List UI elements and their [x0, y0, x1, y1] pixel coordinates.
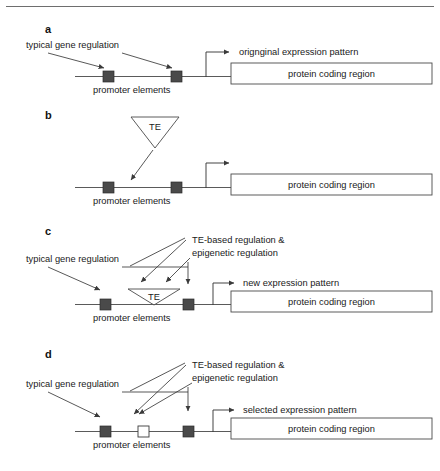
panel-c: c TE-based regulation & epigenetic regul…	[26, 225, 432, 323]
panel-d-promoter-elements-label: promoter elements	[93, 440, 171, 450]
panel-d: d TE-based regulation & epigenetic regul…	[26, 348, 432, 450]
panel-b-promoter-box-left	[103, 182, 114, 193]
panel-c-te-label: TE	[148, 292, 160, 302]
panel-b-letter: b	[45, 109, 52, 121]
panel-a-expression-pattern-label: orignginal expression pattern	[239, 47, 358, 57]
panel-a-promoter-elements-label: promoter elements	[93, 85, 171, 95]
panel-c-annotation-leader-a	[130, 238, 185, 266]
panel-d-arrow-to-empty-box-b	[139, 383, 192, 414]
panel-c-promoter-elements-label: promoter elements	[93, 313, 171, 323]
panel-b-promoter-elements-label: promoter elements	[93, 196, 171, 206]
panel-a-letter: a	[45, 23, 52, 35]
panel-c-letter: c	[45, 225, 51, 237]
panel-c-te-annotation-line2: epigenetic regulation	[192, 248, 278, 258]
panel-a-typical-regulation-label: typical gene regulation	[26, 40, 119, 50]
panel-a-arrow-to-right-promoter	[122, 53, 172, 68]
panel-d-promoter-box-right	[183, 426, 194, 437]
panel-d-te-remnant-box	[138, 426, 149, 437]
gene-regulation-figure: a typical gene regulation orignginal exp…	[0, 0, 440, 471]
panel-c-arrow-to-left-promoter	[48, 267, 100, 290]
panel-b-transcription-start-arrow	[206, 163, 229, 188]
panel-d-promoter-box-left	[100, 426, 111, 437]
panel-d-typical-regulation-label: typical gene regulation	[26, 379, 119, 389]
panel-d-coding-region-label: protein coding region	[288, 424, 375, 434]
panel-a-promoter-box-left	[103, 71, 114, 82]
panel-c-arrow-to-te-left	[141, 240, 186, 282]
panel-c-te-annotation-line1: TE-based regulation &	[192, 235, 285, 245]
panel-d-expression-pattern-label: selected expression pattern	[243, 405, 357, 415]
panel-d-arrow-to-empty-box-a	[134, 365, 186, 414]
panel-c-coding-region-label: protein coding region	[288, 297, 375, 307]
panel-d-te-annotation-line2: epigenetic regulation	[192, 373, 278, 383]
panel-c-typical-regulation-label: typical gene regulation	[26, 254, 119, 264]
panel-d-annotation-leader-a	[130, 363, 185, 391]
panel-b: b TE protein coding region promoter elem…	[45, 109, 432, 206]
panel-a-arrow-to-left-promoter	[48, 53, 104, 68]
panel-b-promoter-box-right	[171, 182, 182, 193]
panel-d-te-annotation-line1: TE-based regulation &	[192, 360, 285, 370]
panel-d-letter: d	[45, 348, 52, 360]
panel-a-promoter-box-right	[171, 71, 182, 82]
panel-a-transcription-start-arrow	[206, 52, 229, 77]
panel-c-promoter-box-right	[183, 299, 194, 310]
panel-c-promoter-box-left	[100, 299, 111, 310]
panel-b-te-insertion-arrow	[131, 150, 153, 180]
panel-d-arrow-to-left-promoter	[48, 392, 100, 417]
panel-b-coding-region-label: protein coding region	[288, 180, 375, 190]
panel-c-expression-pattern-label: new expression pattern	[243, 278, 339, 288]
panel-a-coding-region-label: protein coding region	[288, 69, 375, 79]
panel-a: a typical gene regulation orignginal exp…	[26, 23, 432, 95]
panel-b-te-label: TE	[149, 122, 161, 132]
panel-c-arrow-to-te-right	[166, 258, 190, 282]
